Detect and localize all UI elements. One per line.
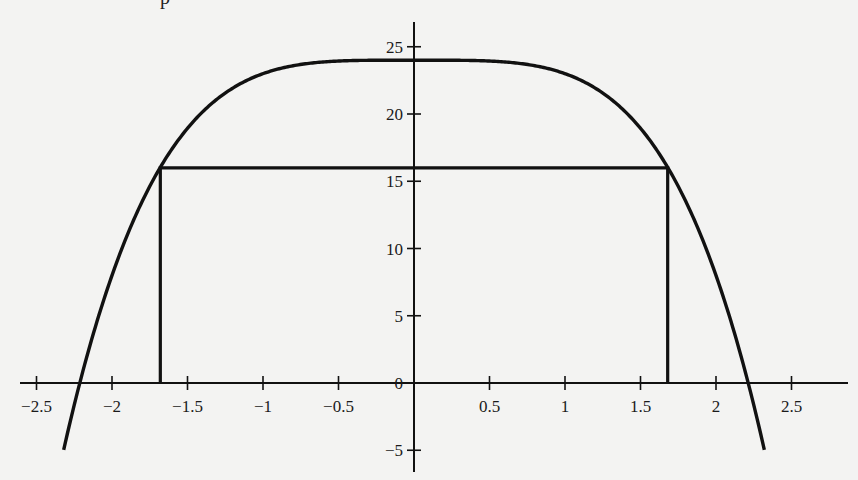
- y-tick-label: 5: [395, 307, 404, 326]
- x-tick-label: 2: [712, 397, 721, 416]
- y-tick-label: 15: [386, 172, 403, 191]
- function-plot: −2.5−2−1.5−1−0.50.511.522.5−50510152025: [0, 0, 858, 480]
- y-tick-label: 20: [386, 105, 403, 124]
- x-tick-label: 2.5: [781, 397, 802, 416]
- x-tick-label: −1.5: [172, 397, 203, 416]
- y-tick-label: −5: [385, 441, 403, 460]
- x-tick-label: −0.5: [323, 397, 354, 416]
- axes: [20, 22, 848, 472]
- y-tick-label: 0: [395, 374, 404, 393]
- x-tick-label: 1.5: [630, 397, 651, 416]
- y-tick-label: 25: [386, 38, 403, 57]
- x-tick-label: 1: [561, 397, 570, 416]
- x-tick-label: −2.5: [21, 397, 52, 416]
- x-tick-label: −2: [103, 397, 121, 416]
- y-tick-label: 10: [386, 240, 403, 259]
- x-tick-label: −1: [254, 397, 272, 416]
- x-tick-label: 0.5: [479, 397, 500, 416]
